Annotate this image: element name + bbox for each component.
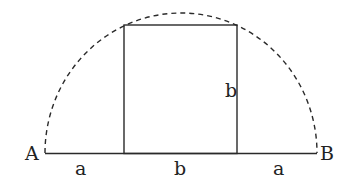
inscribed-square: [124, 25, 237, 154]
point-a-label: A: [24, 142, 39, 164]
square-side-label: b: [225, 79, 237, 101]
point-b-label: B: [320, 142, 334, 164]
semicircle-arc: [45, 13, 317, 153]
semicircle-square-diagram: A B a b a b: [0, 0, 352, 181]
segment-left-label: a: [75, 157, 86, 179]
segment-middle-label: b: [174, 157, 186, 179]
segment-right-label: a: [273, 157, 284, 179]
